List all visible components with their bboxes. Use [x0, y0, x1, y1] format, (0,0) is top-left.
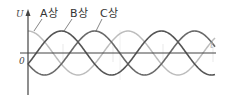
three-phase-diagram: U t 0 A상 B상 C상 [0, 0, 228, 102]
leader-line-b [64, 19, 72, 31]
series-label-a: A상 [40, 7, 58, 20]
y-axis-arrow-icon [26, 9, 31, 16]
label-leaders [34, 19, 102, 31]
series-label-b: B상 [70, 7, 88, 20]
leader-line-a [34, 19, 42, 31]
series-label-c: C상 [100, 7, 118, 20]
leader-line-c [96, 19, 102, 31]
y-axis-label: U [16, 9, 24, 19]
x-axis-label: t [210, 40, 214, 50]
origin-label: 0 [19, 56, 25, 66]
